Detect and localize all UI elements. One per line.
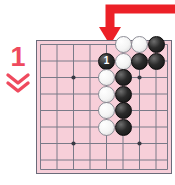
- stone-white[interactable]: [115, 53, 132, 70]
- stone-white[interactable]: [131, 36, 148, 53]
- stone-black[interactable]: [115, 102, 132, 119]
- stone-white[interactable]: [115, 36, 132, 53]
- step-number: 1: [2, 42, 34, 72]
- stone-move-number: 1: [99, 54, 114, 69]
- stone-black[interactable]: [131, 53, 148, 70]
- stone-black[interactable]: [115, 86, 132, 103]
- stone-white[interactable]: [98, 119, 115, 136]
- stone-black[interactable]: [148, 53, 165, 70]
- stone-black[interactable]: [148, 36, 165, 53]
- double-chevron-down-icon: [5, 72, 31, 94]
- stone-white[interactable]: [98, 69, 115, 86]
- stone-white[interactable]: [98, 86, 115, 103]
- stone-white[interactable]: [98, 102, 115, 119]
- stone-black[interactable]: [115, 119, 132, 136]
- figure-caption: [112, 174, 174, 184]
- stone-black[interactable]: [115, 69, 132, 86]
- figure-root: 1: [0, 0, 175, 185]
- go-board[interactable]: 1: [36, 40, 172, 174]
- step-marker: 1: [2, 42, 34, 94]
- stone-black-1[interactable]: 1: [98, 53, 115, 70]
